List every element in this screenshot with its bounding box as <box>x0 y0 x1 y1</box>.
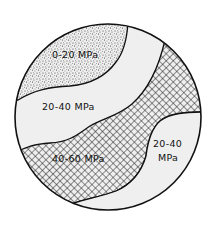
label-20-40-middle: 20-40 MPa <box>42 101 95 112</box>
label-40-60: 40-60 MPa <box>52 153 105 164</box>
label-20-40-bottom-line1: 20-40 <box>153 138 182 149</box>
label-0-20: 0-20 MPa <box>52 49 98 60</box>
label-20-40-bottom-line2: MPa <box>158 152 178 163</box>
stress-diagram: 0-20 MPa 20-40 MPa 40-60 MPa 20-40 MPa <box>0 0 213 225</box>
